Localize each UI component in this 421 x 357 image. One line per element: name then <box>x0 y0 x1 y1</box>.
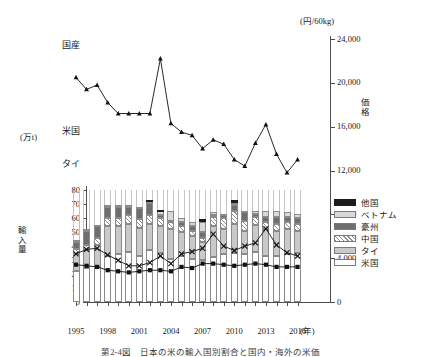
data-point-marker-triangle <box>285 170 290 175</box>
bar-segment-th <box>284 229 291 254</box>
data-point-marker-triangle <box>116 111 121 116</box>
x-axis-tick <box>139 303 140 306</box>
data-point-marker-triangle <box>74 75 79 80</box>
bar-segment-au <box>104 207 111 218</box>
bar-segment-au <box>262 217 269 223</box>
x-axis-tick <box>108 303 109 306</box>
bar-segment-cn <box>294 224 301 231</box>
bar-segment-au <box>294 218 301 224</box>
left-axis-title: 輸入量 <box>17 226 27 255</box>
legend-swatch-cn <box>334 235 356 242</box>
bar-segment-th <box>94 245 101 267</box>
bar-segment-cn <box>284 222 291 229</box>
bar-segment-vn <box>262 211 269 217</box>
right-axis-tick <box>331 127 335 128</box>
x-axis-tick <box>287 303 288 306</box>
x-axis-tick-label: 2004 <box>157 327 185 336</box>
bar-segment-us <box>231 253 238 302</box>
bar-segment-vn <box>104 205 111 207</box>
bar-segment-vn <box>94 225 101 227</box>
bar-segment-us <box>104 256 111 302</box>
data-point-marker-triangle <box>105 100 110 105</box>
bar-segment-au <box>167 221 174 223</box>
legend-swatch-us <box>334 259 356 266</box>
right-axis-tick <box>331 83 335 84</box>
bar-segment-vn <box>284 212 291 216</box>
x-axis-tick <box>182 303 183 306</box>
legend-item-us: 米国 <box>334 257 420 268</box>
bar-segment-th <box>189 236 196 258</box>
bar-segment-au <box>189 226 196 230</box>
legend-swatch-th <box>334 247 356 254</box>
x-axis-tick <box>150 303 151 306</box>
bar-segment-us <box>167 259 174 302</box>
bar-segment-cn <box>104 218 111 226</box>
bar-segment-vn <box>115 205 122 207</box>
series-label-domestic: 国産 <box>62 38 80 51</box>
legend-item-cn: 中国 <box>334 233 420 244</box>
bar-segment-th <box>252 225 259 252</box>
bar-segment-th <box>136 228 143 256</box>
bar-segment-us <box>252 252 259 302</box>
bar-column <box>167 190 174 302</box>
x-axis-tick <box>129 303 130 306</box>
x-axis-tick-label: 2013 <box>252 327 280 336</box>
legend-label: 他国 <box>361 196 379 208</box>
bar-segment-th <box>210 226 217 257</box>
bar-segment-cn <box>146 215 153 223</box>
bar-segment-vn <box>125 205 132 207</box>
bar-segment-th <box>262 229 269 256</box>
right-axis-tick-label: 0 <box>337 298 341 307</box>
bar-segment-us <box>220 254 227 302</box>
bar-segment-vn <box>199 222 206 232</box>
bar-segment-us <box>73 271 80 302</box>
right-axis-unit: (円/60kg) <box>300 17 334 26</box>
legend-label: 中国 <box>361 232 379 244</box>
bar-segment-au <box>231 205 238 211</box>
legend-swatch-au <box>334 223 356 230</box>
data-point-marker-triangle <box>148 111 153 116</box>
bar-segment-vn <box>136 207 143 209</box>
right-axis-line <box>330 36 331 303</box>
bar-column <box>115 190 122 302</box>
right-axis-tick <box>331 171 335 172</box>
bar-segment-us <box>273 256 280 302</box>
right-axis-tick-label: 24,000 <box>337 35 360 44</box>
bar-segment-cn <box>73 249 80 255</box>
data-point-marker-triangle <box>95 82 100 87</box>
legend-label: 豪州 <box>361 220 379 232</box>
bar-segment-th <box>231 224 238 253</box>
bar-column <box>294 190 301 302</box>
bar-segment-cn <box>83 245 90 251</box>
bar-column <box>210 190 217 302</box>
bar-segment-th <box>73 254 80 271</box>
data-point-marker-triangle <box>253 141 258 146</box>
bar-segment-us <box>178 256 185 302</box>
right-axis-title: 価格 <box>360 98 370 117</box>
bar-segment-au <box>284 217 291 223</box>
bar-segment-au <box>136 208 143 219</box>
data-point-marker-triangle <box>232 157 237 162</box>
bar-segment-ot <box>157 210 164 212</box>
bar-segment-vn <box>167 211 174 221</box>
bar-column <box>231 190 238 302</box>
right-axis-tick-label: 16,000 <box>337 122 360 131</box>
bar-column <box>220 190 227 302</box>
bar-segment-th <box>125 224 132 252</box>
x-axis-tick <box>234 303 235 306</box>
bar-segment-au <box>146 203 153 216</box>
bar-segment-cn <box>252 217 259 225</box>
x-axis-tick-label: 2010 <box>220 327 248 336</box>
legend-label: ベトナム <box>361 208 397 220</box>
x-axis-tick-label: 1998 <box>94 327 122 336</box>
bar-column <box>189 190 196 302</box>
data-point-marker-triangle <box>274 152 279 157</box>
bar-segment-au <box>199 232 206 238</box>
bar-segment-us <box>136 256 143 302</box>
bar-segment-au <box>252 214 259 217</box>
bar-segment-au <box>178 222 185 226</box>
bar-segment-au <box>115 207 122 218</box>
bar-segment-cn <box>157 218 164 226</box>
x-axis-tick <box>192 303 193 306</box>
bar-segment-vn <box>231 203 238 206</box>
